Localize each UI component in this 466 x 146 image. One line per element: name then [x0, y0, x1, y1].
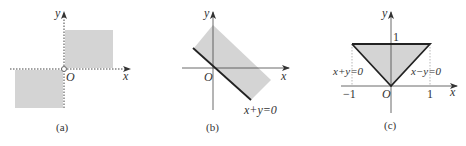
caption-b: (b) — [206, 121, 219, 134]
y-tick-1: 1 — [393, 30, 399, 44]
right-line-label: x−y=0 — [410, 65, 442, 77]
x-axis-label: x — [122, 69, 129, 83]
shaded-region-q3 — [15, 70, 63, 108]
shaded-region-q1 — [65, 30, 113, 68]
caption-c: (c) — [384, 119, 397, 132]
x-tick-neg1: −1 — [343, 87, 356, 101]
line-label: x+y=0 — [243, 103, 277, 117]
origin-label: O — [204, 70, 213, 84]
diagram-a: x y O (a) — [10, 6, 130, 134]
caption-a: (a) — [56, 121, 69, 134]
y-axis-label: y — [203, 6, 210, 20]
y-axis-label: y — [54, 6, 61, 20]
shaded-strip — [194, 25, 271, 100]
x-tick-1: 1 — [427, 87, 433, 101]
x-axis-label: x — [280, 69, 287, 83]
left-line-label: x+y=0 — [332, 65, 364, 77]
diagram-canvas: x y O (a) x y O x+y=0 (b) x y 1 O −1 1 x… — [0, 0, 466, 146]
diagram-b: x y O x+y=0 (b) — [182, 6, 289, 134]
origin-label: O — [66, 70, 75, 84]
origin-label: O — [382, 87, 391, 101]
diagram-c: x y 1 O −1 1 x+y=0 x−y=0 (c) — [332, 6, 457, 132]
y-axis-label: y — [381, 6, 388, 20]
x-axis-label: x — [449, 85, 456, 99]
